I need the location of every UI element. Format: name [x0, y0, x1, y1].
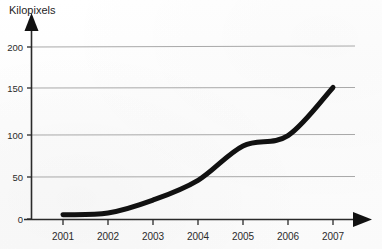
xtick-label-2004: 2004 [187, 231, 210, 242]
xtick-label-2005: 2005 [232, 231, 255, 242]
ytick-label-0: 0 [18, 214, 23, 225]
xtick-label-2003: 2003 [142, 231, 165, 242]
gridlines [31, 46, 355, 177]
gridline-50 [31, 177, 355, 178]
x-axis-tick-labels: 2001 2002 2003 2004 2005 2006 2007 [52, 231, 345, 242]
gridline-100 [31, 135, 355, 136]
y-axis-tick-labels: 200 150 100 50 0 [7, 42, 23, 225]
gridline-200 [31, 46, 355, 47]
y-axis-title: Kilopixels [9, 4, 56, 16]
ytick-label-50: 50 [12, 172, 23, 183]
xtick-label-2002: 2002 [97, 231, 120, 242]
ytick-label-100: 100 [7, 130, 23, 141]
ytick-label-200: 200 [7, 42, 23, 53]
x-axis-ticks [63, 220, 333, 226]
ytick-label-150: 150 [7, 83, 23, 94]
y-axis [25, 13, 39, 219]
gridline-150 [31, 88, 355, 89]
xtick-label-2007: 2007 [322, 231, 345, 242]
xtick-label-2001: 2001 [52, 231, 75, 242]
line-chart: 200 150 100 50 0 Kilopixels 2001 2002 [0, 0, 382, 249]
chart-container: 200 150 100 50 0 Kilopixels 2001 2002 [0, 0, 382, 249]
xtick-label-2006: 2006 [277, 231, 300, 242]
data-series-line [63, 87, 333, 214]
arrow-right-icon [353, 212, 372, 227]
